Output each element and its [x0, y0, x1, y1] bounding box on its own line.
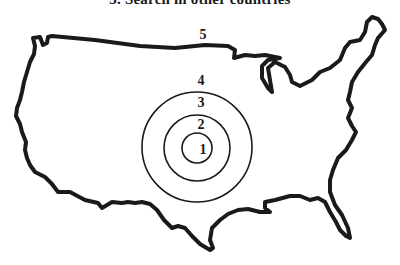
us-map-diagram: 5 4 3 2 1: [0, 0, 400, 265]
label-ring-inner: 2: [198, 117, 205, 132]
label-ring-middle: 3: [198, 95, 205, 110]
label-center: 1: [200, 142, 207, 157]
label-ring-outer: 4: [198, 73, 205, 88]
search-ring-inner: [182, 133, 212, 163]
label-map: 5: [200, 27, 207, 42]
